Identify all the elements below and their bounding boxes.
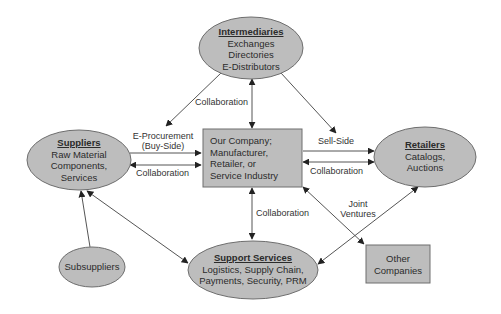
label-collab-intermediaries: Collaboration: [195, 97, 248, 108]
our-company-line: Retailer, or: [210, 158, 300, 170]
label-collab-support: Collaboration: [256, 208, 309, 219]
suppliers-title: Suppliers: [27, 137, 131, 149]
label-collab-suppliers: Collaboration: [136, 168, 189, 179]
label-joint-line2: Ventures: [333, 209, 383, 220]
retailers-line: Catalogs,: [374, 151, 476, 163]
suppliers-text: Suppliers Raw Material Components, Servi…: [27, 137, 131, 183]
support-services-title: Support Services: [188, 252, 318, 264]
retailers-text: Retailers Catalogs, Auctions: [374, 139, 476, 174]
suppliers-line: Services: [27, 172, 131, 184]
our-company-line: Manufacturer,: [210, 147, 300, 159]
subsuppliers-label: Subsuppliers: [59, 261, 125, 273]
label-eproc-line2: (Buy-Side): [131, 141, 195, 152]
intermediaries-title: Intermediaries: [199, 26, 303, 38]
suppliers-line: Components,: [27, 160, 131, 172]
support-services-line: Logistics, Supply Chain,: [188, 264, 318, 276]
subsuppliers-text: Subsuppliers: [59, 261, 125, 273]
retailers-line: Auctions: [374, 162, 476, 174]
other-companies-line: Other: [366, 253, 430, 265]
other-companies-text: Other Companies: [366, 253, 430, 276]
suppliers-line: Raw Material: [27, 149, 131, 161]
retailers-title: Retailers: [374, 139, 476, 151]
intermediaries-line: Exchanges: [199, 38, 303, 50]
label-collab-retailers: Collaboration: [310, 166, 363, 177]
edge-intermediaries-to-sellside: [281, 73, 336, 133]
support-services-text: Support Services Logistics, Supply Chain…: [188, 252, 318, 287]
intermediaries-text: Intermediaries Exchanges Directories E-D…: [199, 26, 303, 72]
other-companies-line: Companies: [366, 265, 430, 277]
our-company-line: Our Company;: [210, 135, 300, 147]
our-company-text: Our Company; Manufacturer, Retailer, or …: [210, 135, 300, 181]
label-sell-side: Sell-Side: [318, 136, 354, 147]
edge-subsuppliers-to-suppliers: [81, 191, 90, 247]
support-services-line: Payments, Security, PRM: [188, 275, 318, 287]
our-company-line: Service Industry: [210, 170, 300, 182]
intermediaries-line: E-Distributors: [199, 61, 303, 73]
intermediaries-line: Directories: [199, 49, 303, 61]
